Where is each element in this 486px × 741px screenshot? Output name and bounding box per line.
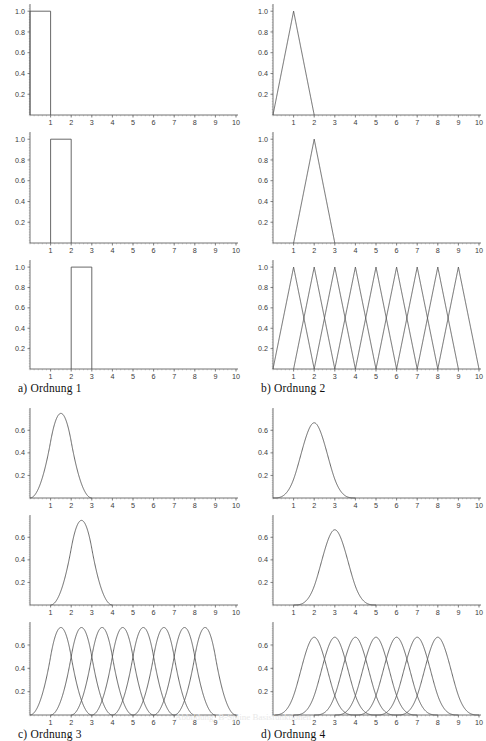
x-tick-label: 5 bbox=[131, 246, 135, 255]
x-tick-label: 3 bbox=[90, 118, 94, 127]
x-tick-label: 8 bbox=[436, 501, 440, 510]
x-tick-label: 7 bbox=[415, 501, 419, 510]
y-tick-label: 0.6 bbox=[15, 176, 25, 185]
y-tick-label: 0.2 bbox=[15, 344, 25, 353]
bspline-curve bbox=[273, 11, 314, 115]
y-tick-label: 1.0 bbox=[258, 263, 268, 272]
x-tick-label: 5 bbox=[131, 608, 135, 617]
x-tick-label: 4 bbox=[110, 372, 114, 381]
y-tick-label: 0.8 bbox=[258, 28, 268, 37]
bspline-curve bbox=[273, 267, 314, 369]
x-tick-label: 5 bbox=[374, 118, 378, 127]
subplot-c-1: 0.20.40.612345678910 bbox=[0, 404, 243, 511]
x-tick-label: 9 bbox=[213, 372, 217, 381]
y-tick-label: 1.0 bbox=[15, 263, 25, 272]
subplot-a-3: 0.20.40.60.81.012345678910 bbox=[0, 256, 243, 382]
x-tick-label: 1 bbox=[292, 608, 296, 617]
subplot-d-1: 0.20.40.612345678910 bbox=[243, 404, 486, 511]
x-tick-label: 10 bbox=[475, 608, 483, 617]
x-tick-label: 10 bbox=[232, 372, 240, 381]
subplot-a-1: 0.20.40.60.81.012345678910 bbox=[0, 0, 243, 128]
bspline-curve bbox=[355, 637, 437, 715]
y-tick-label: 0.2 bbox=[258, 218, 268, 227]
y-tick-label: 0.4 bbox=[258, 69, 268, 78]
x-tick-label: 6 bbox=[152, 608, 156, 617]
y-tick-label: 0.6 bbox=[258, 533, 268, 542]
y-tick-label: 0.2 bbox=[258, 578, 268, 587]
y-tick-label: 0.4 bbox=[258, 664, 268, 673]
panel-group-b: 0.20.40.60.81.012345678910 0.20.40.60.81… bbox=[243, 0, 486, 395]
x-tick-label: 1 bbox=[292, 246, 296, 255]
bspline-curve bbox=[438, 267, 479, 369]
x-tick-label: 4 bbox=[353, 608, 357, 617]
y-tick-label: 0.4 bbox=[15, 324, 25, 333]
x-tick-label: 3 bbox=[333, 608, 337, 617]
x-tick-label: 10 bbox=[475, 118, 483, 127]
y-tick-label: 0.4 bbox=[258, 448, 268, 457]
x-tick-label: 9 bbox=[456, 246, 460, 255]
y-tick-label: 0.6 bbox=[15, 533, 25, 542]
panel-group-d: 0.20.40.612345678910 0.20.40.61234567891… bbox=[243, 404, 486, 741]
x-tick-label: 5 bbox=[374, 501, 378, 510]
x-tick-label: 7 bbox=[172, 246, 176, 255]
bspline-curve bbox=[30, 11, 51, 115]
x-tick-label: 6 bbox=[152, 372, 156, 381]
y-tick-label: 0.8 bbox=[15, 28, 25, 37]
bspline-curve bbox=[71, 267, 92, 369]
y-tick-label: 0.4 bbox=[15, 69, 25, 78]
x-tick-label: 10 bbox=[475, 501, 483, 510]
x-tick-label: 2 bbox=[69, 118, 73, 127]
x-tick-label: 10 bbox=[475, 246, 483, 255]
x-tick-label: 2 bbox=[312, 608, 316, 617]
x-tick-label: 6 bbox=[152, 118, 156, 127]
x-tick-label: 7 bbox=[415, 372, 419, 381]
y-tick-label: 0.8 bbox=[258, 283, 268, 292]
y-tick-label: 0.2 bbox=[258, 687, 268, 696]
x-tick-label: 3 bbox=[90, 608, 94, 617]
x-tick-label: 1 bbox=[292, 118, 296, 127]
x-tick-label: 4 bbox=[353, 372, 357, 381]
y-tick-label: 0.4 bbox=[15, 555, 25, 564]
x-tick-label: 10 bbox=[232, 118, 240, 127]
y-tick-label: 0.4 bbox=[258, 324, 268, 333]
bspline-curve bbox=[294, 139, 335, 243]
x-tick-label: 5 bbox=[374, 372, 378, 381]
x-tick-label: 9 bbox=[456, 501, 460, 510]
x-tick-label: 1 bbox=[49, 246, 53, 255]
x-tick-label: 4 bbox=[110, 608, 114, 617]
x-tick-label: 7 bbox=[172, 608, 176, 617]
bspline-curve bbox=[133, 628, 195, 716]
x-tick-label: 4 bbox=[353, 118, 357, 127]
subplot-b-3: 0.20.40.60.81.012345678910 bbox=[243, 256, 486, 382]
y-tick-label: 0.2 bbox=[15, 687, 25, 696]
y-tick-label: 0.4 bbox=[15, 197, 25, 206]
x-tick-label: 5 bbox=[374, 246, 378, 255]
bspline-curve bbox=[154, 628, 216, 716]
y-tick-label: 1.0 bbox=[258, 7, 268, 16]
x-tick-label: 3 bbox=[333, 501, 337, 510]
bspline-curve bbox=[174, 628, 236, 716]
subplot-b-1: 0.20.40.60.81.012345678910 bbox=[243, 0, 486, 128]
subplot-b-2: 0.20.40.60.81.012345678910 bbox=[243, 128, 486, 256]
x-tick-label: 2 bbox=[69, 246, 73, 255]
x-tick-label: 8 bbox=[436, 118, 440, 127]
x-tick-label: 8 bbox=[436, 608, 440, 617]
bspline-curve bbox=[376, 637, 458, 715]
y-tick-label: 0.6 bbox=[258, 426, 268, 435]
x-tick-label: 9 bbox=[213, 501, 217, 510]
bspline-curve bbox=[273, 423, 355, 498]
x-tick-label: 9 bbox=[456, 372, 460, 381]
y-tick-label: 0.2 bbox=[15, 90, 25, 99]
x-tick-label: 6 bbox=[152, 246, 156, 255]
x-tick-label: 8 bbox=[193, 372, 197, 381]
x-tick-label: 7 bbox=[172, 501, 176, 510]
caption-a: a) Ordnung 1 bbox=[0, 382, 243, 395]
bspline-curve bbox=[294, 267, 335, 369]
x-tick-label: 4 bbox=[110, 501, 114, 510]
y-tick-label: 0.6 bbox=[15, 48, 25, 57]
x-tick-label: 2 bbox=[69, 608, 73, 617]
x-tick-label: 6 bbox=[395, 501, 399, 510]
bspline-curve bbox=[294, 637, 376, 715]
x-tick-label: 9 bbox=[456, 608, 460, 617]
